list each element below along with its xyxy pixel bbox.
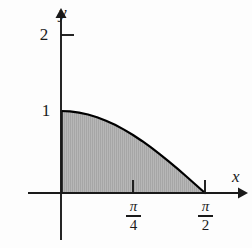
- x-axis-label: x: [232, 168, 240, 185]
- x-tick-label-pi-over-4: π 4: [123, 199, 144, 233]
- y-tick-label-2: 2: [36, 26, 52, 43]
- y-axis-label: y: [59, 4, 67, 21]
- fraction-denominator: 2: [195, 217, 216, 233]
- y-tick-label-1: 1: [38, 102, 54, 119]
- math-figure: y x 2 1 π 4 π 2: [0, 0, 252, 248]
- fraction-denominator: 4: [123, 217, 144, 233]
- x-tick-label-pi-over-2: π 2: [195, 199, 216, 233]
- fraction-numerator: π: [195, 199, 216, 215]
- x-axis-arrowhead: [238, 188, 248, 199]
- fraction-numerator: π: [123, 199, 144, 215]
